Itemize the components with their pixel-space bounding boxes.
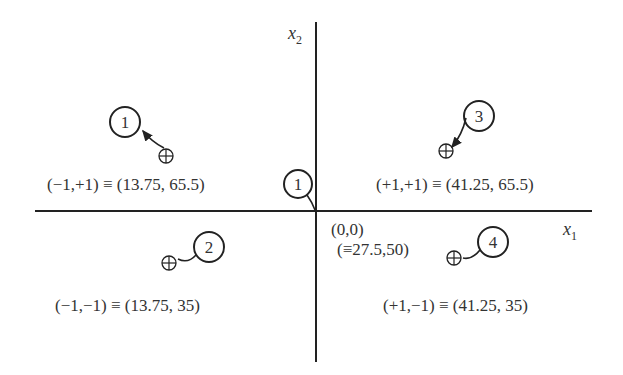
- x1-label-sub: 1: [571, 229, 577, 243]
- svg-text:4: 4: [489, 233, 498, 252]
- point-upper-left: 1: [110, 107, 173, 163]
- x1-axis-label: x1: [563, 220, 577, 242]
- x2-axis-label: x2: [288, 24, 302, 46]
- point-lower-left: 2: [162, 232, 224, 270]
- svg-text:1: 1: [294, 175, 303, 194]
- svg-text:1: 1: [121, 113, 130, 132]
- origin-coded-label: (0,0): [331, 221, 364, 238]
- origin-run-marker: 1: [284, 170, 315, 210]
- x2-label-text: x: [288, 23, 296, 43]
- point-upper-right: 3: [439, 101, 494, 158]
- svg-text:2: 2: [205, 238, 214, 257]
- origin-actual-label: (≡27.5,50): [337, 241, 409, 258]
- factorial-design-diagram: 1 1 3 2: [0, 0, 623, 375]
- corner-label-upper-right: (+1,+1) ≡ (41.25, 65.5): [376, 176, 534, 193]
- svg-text:3: 3: [475, 107, 484, 126]
- x2-label-sub: 2: [296, 33, 302, 47]
- corner-label-lower-right: (+1,−1) ≡ (41.25, 35): [383, 297, 528, 314]
- point-lower-right: 4: [447, 227, 508, 265]
- x1-label-text: x: [563, 219, 571, 239]
- corner-label-lower-left: (−1,−1) ≡ (13.75, 35): [55, 297, 200, 314]
- corner-label-upper-left: (−1,+1) ≡ (13.75, 65.5): [47, 176, 205, 193]
